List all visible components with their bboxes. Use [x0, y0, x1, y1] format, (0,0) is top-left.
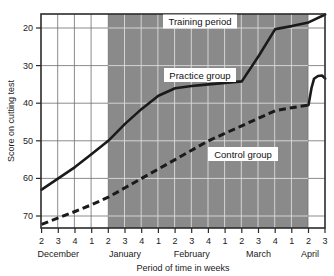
x-tick-label-7: 1: [156, 236, 161, 246]
month-label-march: March: [246, 249, 271, 259]
annotation-training-period: Training period: [163, 15, 237, 29]
x-tick-label-2: 4: [72, 236, 77, 246]
y-tick-label-60: 60: [23, 173, 33, 183]
month-label-february: February: [174, 249, 211, 259]
annotation-practice-group-text: Practice group: [169, 70, 230, 81]
x-tick-label-11: 1: [223, 236, 228, 246]
y-tick-label-70: 70: [23, 211, 33, 221]
x-tick-label-5: 3: [122, 236, 127, 246]
line-chart-svg: 20 30 40 50 60 70 Score on cutting test: [0, 0, 334, 276]
x-tick-label-8: 2: [173, 236, 178, 246]
annotation-control-group-text: Control group: [214, 149, 272, 160]
x-tick-label-10: 4: [206, 236, 211, 246]
x-tick-label-0: 2: [39, 236, 44, 246]
annotation-practice-group: Practice group: [164, 68, 236, 82]
x-tick-label-1: 3: [56, 236, 61, 246]
y-tick-label-30: 30: [23, 61, 33, 71]
x-tick-label-3: 1: [89, 236, 94, 246]
annotation-training-period-text: Training period: [168, 16, 231, 27]
x-tick-label-4: 2: [106, 236, 111, 246]
chart-figure: 20 30 40 50 60 70 Score on cutting test: [0, 0, 334, 276]
month-label-april: April: [301, 249, 319, 259]
month-label-january: January: [109, 249, 142, 259]
x-tick-label-15: 1: [289, 236, 294, 246]
y-axis-title: Score on cutting test: [6, 79, 16, 162]
x-tick-label-6: 4: [139, 236, 144, 246]
y-tick-label-20: 20: [23, 23, 33, 33]
x-tick-label-9: 3: [189, 236, 194, 246]
x-tick-label-12: 2: [239, 236, 244, 246]
x-tick-label-13: 3: [256, 236, 261, 246]
x-tick-label-17: 3: [322, 236, 327, 246]
y-tick-label-40: 40: [23, 98, 33, 108]
x-axis-title: Period of time in weeks: [136, 263, 230, 273]
month-label-december: December: [38, 249, 80, 259]
x-tick-label-14: 4: [273, 236, 278, 246]
y-tick-label-50: 50: [23, 136, 33, 146]
x-tick-label-16: 2: [306, 236, 311, 246]
annotation-control-group: Control group: [208, 147, 278, 161]
